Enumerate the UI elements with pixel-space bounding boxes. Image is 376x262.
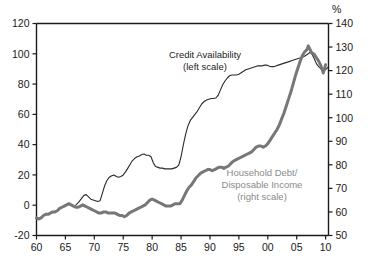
left-axis-tick-label: 100 <box>12 48 30 60</box>
chart-background <box>0 0 376 262</box>
x-axis-tick-label: 95 <box>233 241 245 253</box>
x-axis-tick-label: 90 <box>204 241 216 253</box>
right-axis-tick-label: 120 <box>336 64 354 76</box>
right-axis-tick-label: 70 <box>336 182 348 194</box>
right-axis-tick-label: 90 <box>336 135 348 147</box>
x-axis-tick-label: 70 <box>88 241 100 253</box>
x-axis-tick-label: 85 <box>175 241 187 253</box>
household-debt-annotation-line3: (right scale) <box>237 191 287 202</box>
credit-availability-annotation-line1: Credit Availability <box>169 49 241 60</box>
x-axis-tick-label: 00 <box>262 241 274 253</box>
right-axis-tick-label: 80 <box>336 159 348 171</box>
household-debt-annotation-line2: Disposable Income <box>222 179 303 190</box>
left-axis-tick-label: 80 <box>18 78 30 90</box>
x-axis-tick-label: 60 <box>31 241 43 253</box>
right-axis-tick-label: 60 <box>336 206 348 218</box>
right-axis-tick-label: 110 <box>336 88 353 100</box>
x-axis-tick-label: 75 <box>117 241 129 253</box>
right-axis-unit-label: % <box>332 3 341 15</box>
left-axis-tick-label: 120 <box>12 17 30 29</box>
left-axis-tick-label: 0 <box>24 199 30 211</box>
right-axis-tick-label: 140 <box>336 17 354 29</box>
left-axis-tick-label: -20 <box>14 229 29 241</box>
left-axis-tick-label: 40 <box>18 138 30 150</box>
household-debt-annotation-line1: Household Debt/ <box>227 167 298 178</box>
right-axis-tick-label: 100 <box>336 112 354 124</box>
chart-container: -20020406080100120 506070809010011012013… <box>0 0 376 262</box>
left-axis-tick-label: 60 <box>18 108 30 120</box>
left-axis-tick-label: 20 <box>18 169 30 181</box>
x-axis-tick-label: 10 <box>320 241 332 253</box>
right-axis-tick-label: 50 <box>336 229 348 241</box>
credit-availability-household-debt-chart: -20020406080100120 506070809010011012013… <box>0 0 376 262</box>
x-axis-tick-label: 80 <box>146 241 158 253</box>
x-axis-tick-label: 05 <box>291 241 303 253</box>
right-axis-tick-label: 130 <box>336 41 354 53</box>
x-axis-tick-label: 65 <box>60 241 72 253</box>
credit-availability-annotation-line2: (left scale) <box>183 61 227 72</box>
